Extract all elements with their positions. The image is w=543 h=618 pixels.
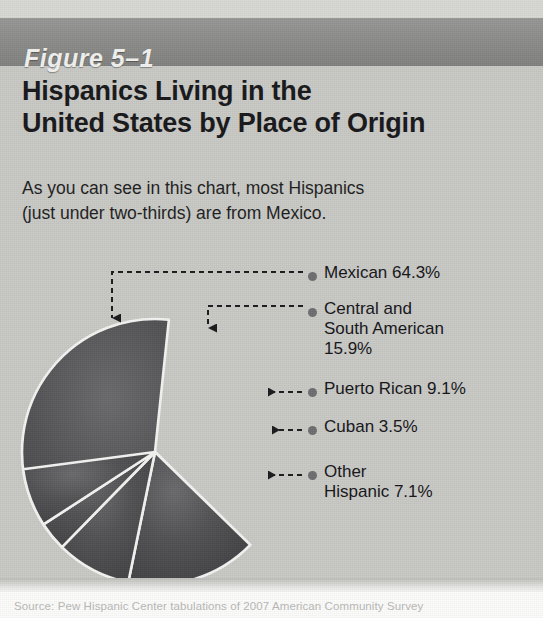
page-top-margin — [0, 0, 543, 18]
figure-header-bar: Figure 5–1 — [0, 18, 543, 66]
marker-dot-cuban — [308, 426, 317, 435]
marker-dot-central — [308, 308, 317, 317]
page-title-line-2: United States by Place of Origin — [22, 108, 522, 140]
figure-subtitle-line-2: (just under two-thirds) are from Mexico. — [22, 201, 492, 226]
page-title-line-1: Hispanics Living in the — [22, 76, 522, 108]
marker-dot-mexican — [308, 272, 317, 281]
legend-label-mexican: Mexican 64.3% — [324, 263, 440, 283]
page-title: Hispanics Living in the United States by… — [22, 76, 522, 140]
legend-label-cuban: Cuban 3.5% — [324, 417, 418, 437]
figure-page: Figure 5–1 Hispanics Living in the Unite… — [0, 0, 543, 618]
marker-dot-other — [308, 471, 317, 480]
pie-chart — [0, 250, 543, 590]
legend-label-puerto-rican: Puerto Rican 9.1% — [324, 379, 466, 399]
marker-dot-puerto-rican — [308, 388, 317, 397]
pie-slices — [22, 319, 250, 585]
legend-label-other: Other Hispanic 7.1% — [324, 462, 433, 502]
source-divider — [0, 578, 543, 592]
figure-subtitle: As you can see in this chart, most Hispa… — [22, 176, 492, 227]
legend-label-central: Central and South American 15.9% — [324, 299, 444, 359]
figure-number-label: Figure 5–1 — [24, 44, 154, 73]
leader-line-central — [208, 306, 303, 328]
source-note: Source: Pew Hispanic Center tabulations … — [14, 600, 534, 612]
figure-subtitle-line-1: As you can see in this chart, most Hispa… — [22, 176, 492, 201]
pie-chart-svg — [0, 250, 543, 590]
